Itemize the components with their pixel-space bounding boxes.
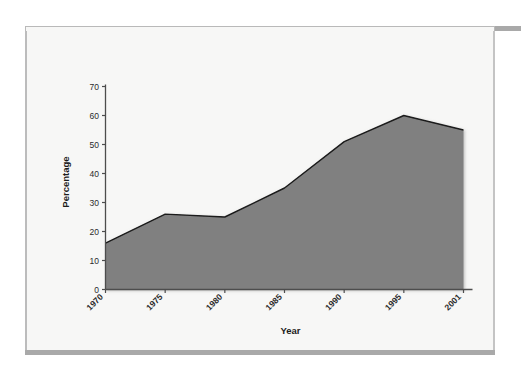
x-axis-tick-labels: 1970197519801985199019952001 (84, 292, 463, 313)
y-axis-tick-labels: 010203040506070 (90, 82, 100, 295)
area-chart-svg: 010203040506070 197019751980198519901995… (0, 0, 523, 379)
x-tick-label: 1990 (323, 292, 344, 313)
y-axis-title: Percentage (60, 156, 71, 207)
x-tick-label: 1975 (144, 292, 165, 313)
y-tick-label: 50 (90, 140, 100, 150)
x-tick-label: 1985 (263, 292, 284, 313)
x-axis-title: Year (280, 325, 300, 336)
y-tick-label: 10 (90, 256, 100, 266)
chart-plot-area: 010203040506070 197019751980198519901995… (0, 0, 523, 379)
y-tick-label: 70 (90, 82, 100, 92)
x-tick-label: 1980 (204, 292, 225, 313)
y-tick-label: 30 (90, 198, 100, 208)
data-area-group (106, 116, 464, 290)
x-tick-label: 1970 (84, 292, 105, 313)
y-tick-label: 20 (90, 227, 100, 237)
area-fill (106, 116, 464, 290)
x-tick-label: 1995 (383, 292, 404, 313)
y-tick-label: 60 (90, 111, 100, 121)
y-tick-label: 40 (90, 169, 100, 179)
x-tick-label: 2001 (442, 292, 463, 313)
